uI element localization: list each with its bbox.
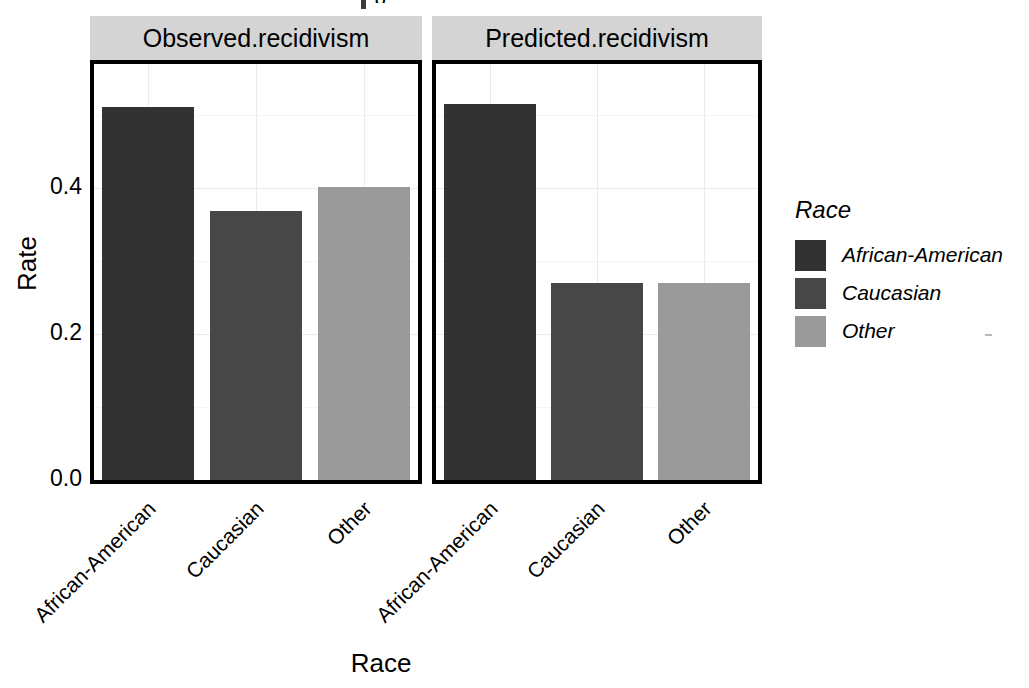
- legend-key-swatch: [795, 316, 826, 347]
- legend: Race African-AmericanCaucasianOther: [795, 196, 1025, 350]
- facet-strip-label: Observed.recidivism: [143, 24, 369, 53]
- legend-items: African-AmericanCaucasianOther: [795, 236, 1025, 350]
- facet-strip-label: Predicted.recidivism: [485, 24, 709, 53]
- facet-strip-2: Predicted.recidivism: [432, 16, 762, 60]
- plot-panel-1: [90, 60, 422, 484]
- scan-artifact-speck: [361, 0, 366, 9]
- legend-item: Other: [795, 312, 1025, 350]
- legend-item-label: Other: [842, 319, 895, 343]
- faceted-bar-chart: p Rate 0.00.20.4 Observed.recidivismPred…: [0, 0, 1029, 688]
- x-axis-title: Race: [0, 648, 762, 679]
- legend-item-label: African-American: [842, 243, 1003, 267]
- plot-panel-2: [432, 60, 762, 484]
- bar: [318, 187, 410, 480]
- y-axis-tick-label: 0.0: [20, 465, 82, 492]
- legend-item: Caucasian: [795, 274, 1025, 312]
- bar: [551, 283, 643, 480]
- scan-artifact-speck-2: [985, 334, 992, 336]
- gridline-major-horizontal: [436, 480, 758, 481]
- legend-title: Race: [795, 196, 1025, 224]
- y-axis-tick-label: 0.4: [20, 173, 82, 200]
- clipped-chart-title: p: [0, 0, 760, 3]
- y-axis-tick-label: 0.2: [20, 319, 82, 346]
- panel-inner: [94, 64, 418, 480]
- bar: [444, 104, 536, 480]
- facet-strip-1: Observed.recidivism: [90, 16, 422, 60]
- legend-item: African-American: [795, 236, 1025, 274]
- legend-key-swatch: [795, 240, 826, 271]
- legend-key-swatch: [795, 278, 826, 309]
- bar: [210, 211, 302, 480]
- gridline-major-horizontal: [94, 480, 418, 481]
- bar: [658, 283, 750, 480]
- panel-inner: [436, 64, 758, 480]
- legend-item-label: Caucasian: [842, 281, 941, 305]
- bar: [102, 107, 194, 480]
